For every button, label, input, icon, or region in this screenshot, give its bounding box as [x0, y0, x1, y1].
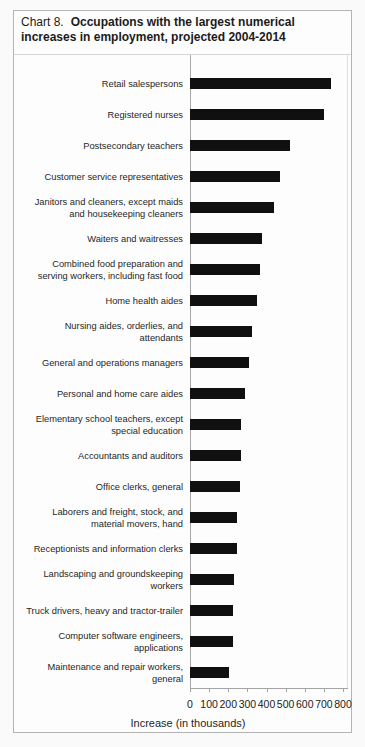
chart-title: Chart 8.Occupations with the largest num…: [21, 15, 347, 45]
bar: [190, 140, 290, 151]
x-axis-tick-label: 200: [220, 698, 238, 710]
category-label: Registered nurses: [14, 109, 190, 121]
category-label: Elementary school teachers, except speci…: [14, 413, 190, 437]
category-label: Customer service representatives: [14, 171, 190, 183]
bar-row: Janitors and cleaners, except maids and …: [14, 192, 351, 223]
bar-row: Customer service representatives: [14, 161, 351, 192]
bar: [190, 450, 241, 461]
chart-box: Chart 8.Occupations with the largest num…: [13, 10, 352, 733]
bar: [190, 667, 229, 678]
bar: [190, 357, 249, 368]
bar-row: Landscaping and groundskeeping workers: [14, 564, 351, 595]
bar-row: Combined food preparation and serving wo…: [14, 254, 351, 285]
x-axis-tick: [324, 688, 325, 692]
bar: [190, 78, 331, 89]
bar-area: [190, 295, 351, 306]
x-axis-tick-label: 500: [277, 698, 295, 710]
category-label: General and operations managers: [14, 357, 190, 369]
x-axis-tick: [247, 688, 248, 692]
bar-row: Registered nurses: [14, 99, 351, 130]
bar-area: [190, 636, 351, 647]
bar-rows: Retail salespersonsRegistered nursesPost…: [14, 68, 351, 688]
x-axis-tick: [190, 688, 191, 692]
x-axis-tick-label: 300: [239, 698, 257, 710]
bar-area: [190, 264, 351, 275]
bar: [190, 171, 280, 182]
bar: [190, 605, 233, 616]
bar-row: Computer software engineers, application…: [14, 626, 351, 657]
bar-row: General and operations managers: [14, 347, 351, 378]
bar-area: [190, 78, 351, 89]
bar-area: [190, 481, 351, 492]
x-axis-tick: [286, 688, 287, 692]
category-label: Office clerks, general: [14, 481, 190, 493]
category-label: Home health aides: [14, 295, 190, 307]
bar-row: Waiters and waitresses: [14, 223, 351, 254]
chart-number: Chart 8.: [21, 15, 64, 29]
bar: [190, 295, 257, 306]
bar-area: [190, 233, 351, 244]
bar-area: [190, 574, 351, 585]
category-label: Landscaping and groundskeeping workers: [14, 568, 190, 592]
bar-area: [190, 109, 351, 120]
x-axis-tick-label: 100: [200, 698, 218, 710]
x-axis-tick-label: 0: [187, 698, 193, 710]
bar-area: [190, 605, 351, 616]
x-axis-tick: [305, 688, 306, 692]
category-label: Truck drivers, heavy and tractor-trailer: [14, 605, 190, 617]
bar-row: Postsecondary teachers: [14, 130, 351, 161]
x-axis-tick-label: 700: [315, 698, 333, 710]
title-divider: [14, 54, 351, 55]
bar-row: Office clerks, general: [14, 471, 351, 502]
bar-area: [190, 667, 351, 678]
bar-area: [190, 543, 351, 554]
category-label: Retail salespersons: [14, 78, 190, 90]
bar: [190, 481, 240, 492]
x-axis-title: Increase (in thousands): [131, 717, 246, 729]
bar-area: [190, 450, 351, 461]
bar: [190, 512, 237, 523]
category-label: Laborers and freight, stock, and materia…: [14, 506, 190, 530]
category-label: Waiters and waitresses: [14, 233, 190, 245]
category-label: Combined food preparation and serving wo…: [14, 258, 190, 282]
bar-row: Truck drivers, heavy and tractor-trailer: [14, 595, 351, 626]
bar: [190, 326, 252, 337]
bar: [190, 264, 260, 275]
bar-row: Elementary school teachers, except speci…: [14, 409, 351, 440]
bar-area: [190, 512, 351, 523]
bar-area: [190, 202, 351, 213]
bar-row: Nursing aides, orderlies, and attendants: [14, 316, 351, 347]
bar-row: Receptionists and information clerks: [14, 533, 351, 564]
bar-row: Personal and home care aides: [14, 378, 351, 409]
x-axis-tick: [267, 688, 268, 692]
x-axis-tick-label: 600: [296, 698, 314, 710]
category-label: Postsecondary teachers: [14, 140, 190, 152]
bar-area: [190, 171, 351, 182]
bar-row: Accountants and auditors: [14, 440, 351, 471]
x-axis-tick: [209, 688, 210, 692]
bar: [190, 388, 245, 399]
bar-row: Maintenance and repair workers, general: [14, 657, 351, 688]
x-axis-tick-label: 800: [334, 698, 352, 710]
category-label: Receptionists and information clerks: [14, 543, 190, 555]
bar: [190, 419, 241, 430]
bar-row: Retail salespersons: [14, 68, 351, 99]
bar-row: Home health aides: [14, 285, 351, 316]
bar-area: [190, 419, 351, 430]
bar-area: [190, 326, 351, 337]
bar-row: Laborers and freight, stock, and materia…: [14, 502, 351, 533]
bar-area: [190, 388, 351, 399]
category-label: Nursing aides, orderlies, and attendants: [14, 320, 190, 344]
x-axis-tick: [343, 688, 344, 692]
category-label: Janitors and cleaners, except maids and …: [14, 196, 190, 220]
category-label: Maintenance and repair workers, general: [14, 661, 190, 685]
category-label: Accountants and auditors: [14, 450, 190, 462]
x-axis-tick: [228, 688, 229, 692]
bar: [190, 636, 233, 647]
category-label: Computer software engineers, application…: [14, 630, 190, 654]
bar: [190, 202, 274, 213]
bar: [190, 574, 234, 585]
bar: [190, 233, 262, 244]
x-axis-tick-label: 400: [258, 698, 276, 710]
bar-area: [190, 140, 351, 151]
